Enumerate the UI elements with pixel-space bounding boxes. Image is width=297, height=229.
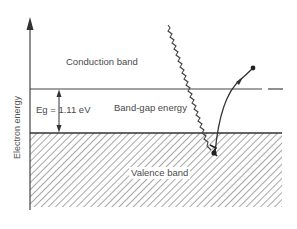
eg-arrow-up-icon <box>57 90 62 98</box>
valence-band-label: Valence band <box>129 167 190 179</box>
electron-path-arrow-icon <box>236 77 243 85</box>
eg-arrow-down-icon <box>57 125 62 133</box>
eg-value-label: Eg = 1.11 eV <box>36 105 91 115</box>
electron-dot <box>251 66 256 71</box>
y-axis-label: Electron energy <box>13 93 22 163</box>
y-axis-arrow-icon <box>27 17 34 30</box>
band-gap-energy-label: Band-gap energy <box>114 103 187 113</box>
conduction-band-label: Conduction band <box>66 57 138 67</box>
photon-wave <box>168 25 211 150</box>
